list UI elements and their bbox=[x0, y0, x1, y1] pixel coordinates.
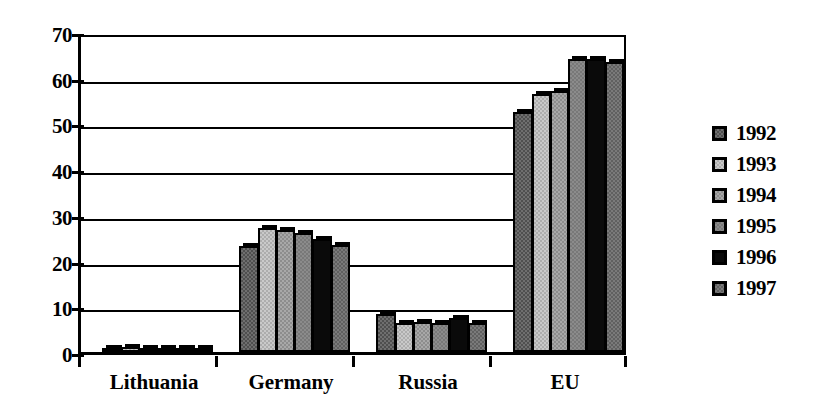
bar-top-cap bbox=[536, 91, 551, 96]
legend-swatch-icon bbox=[712, 219, 727, 234]
bar bbox=[331, 245, 350, 352]
bar-top-cap bbox=[572, 56, 587, 61]
x-axis-category-label: Lithuania bbox=[110, 370, 199, 395]
bar-group bbox=[355, 37, 492, 352]
bar bbox=[312, 239, 331, 352]
bar bbox=[605, 62, 624, 352]
bar-top-cap bbox=[243, 243, 258, 248]
x-axis-tick-mark bbox=[78, 356, 81, 367]
bar bbox=[513, 112, 532, 352]
bar bbox=[102, 348, 121, 352]
bar bbox=[413, 322, 432, 352]
y-axis-tick-label: 60 bbox=[12, 70, 72, 91]
bar bbox=[468, 323, 487, 352]
bar-top-cap bbox=[554, 88, 569, 93]
legend-item: 1993 bbox=[712, 149, 822, 180]
x-axis-tick-mark bbox=[352, 356, 355, 367]
legend-item-label: 1994 bbox=[736, 185, 776, 206]
bar bbox=[175, 348, 194, 352]
legend-item-label: 1992 bbox=[736, 123, 776, 144]
bar-group bbox=[492, 37, 629, 352]
legend-item-label: 1993 bbox=[736, 154, 776, 175]
legend-swatch-icon bbox=[712, 281, 727, 296]
y-axis-tick-label: 70 bbox=[12, 25, 72, 46]
x-axis-category-label: Germany bbox=[248, 370, 333, 395]
x-axis-tick-mark bbox=[215, 356, 218, 367]
bar bbox=[550, 91, 569, 352]
bar-top-cap bbox=[380, 311, 395, 316]
bar-top-cap bbox=[609, 59, 624, 64]
bar-top-cap bbox=[435, 320, 450, 325]
y-axis-tick-label: 20 bbox=[12, 253, 72, 274]
bar-top-cap bbox=[106, 345, 121, 350]
y-axis-tick-mark bbox=[72, 308, 84, 311]
bars-layer bbox=[81, 37, 624, 352]
bar-top-cap bbox=[335, 242, 350, 247]
bar bbox=[157, 348, 176, 352]
legend-swatch-icon bbox=[712, 250, 727, 265]
y-axis-tick-mark bbox=[72, 125, 84, 128]
bar-top-cap bbox=[298, 230, 313, 235]
x-axis-tick-mark bbox=[624, 356, 627, 367]
bar bbox=[239, 246, 258, 352]
bar-top-cap bbox=[517, 109, 532, 114]
bar-top-cap bbox=[161, 345, 176, 350]
legend-item: 1996 bbox=[712, 242, 822, 273]
legend-item: 1994 bbox=[712, 180, 822, 211]
bar bbox=[449, 318, 468, 352]
legend-swatch-icon bbox=[712, 126, 727, 141]
legend-item: 1992 bbox=[712, 118, 822, 149]
bar bbox=[431, 323, 450, 352]
y-axis-tick-mark bbox=[72, 171, 84, 174]
x-axis-category-label: Russia bbox=[398, 370, 458, 395]
legend-item-label: 1995 bbox=[736, 216, 776, 237]
bar bbox=[395, 323, 414, 352]
y-axis-labels: 010203040506070 bbox=[0, 0, 72, 418]
y-axis-tick-mark bbox=[72, 263, 84, 266]
y-axis-tick-label: 0 bbox=[12, 345, 72, 366]
bar bbox=[194, 348, 213, 352]
bar-chart: 010203040506070 LithuaniaGermanyRussiaEU… bbox=[0, 0, 828, 418]
y-axis-tick-label: 40 bbox=[12, 162, 72, 183]
legend-item-label: 1996 bbox=[736, 247, 776, 268]
bar bbox=[276, 230, 295, 353]
y-axis-tick-label: 10 bbox=[12, 299, 72, 320]
bar bbox=[121, 347, 140, 352]
bar bbox=[139, 348, 158, 352]
bar bbox=[568, 59, 587, 352]
y-axis-tick-mark bbox=[72, 217, 84, 220]
y-axis-tick-mark bbox=[72, 354, 84, 357]
bar-top-cap bbox=[262, 225, 277, 230]
bar-top-cap bbox=[590, 56, 605, 61]
y-axis-tick-label: 50 bbox=[12, 116, 72, 137]
bar bbox=[532, 94, 551, 352]
bar-top-cap bbox=[472, 320, 487, 325]
y-axis-tick-label: 30 bbox=[12, 207, 72, 228]
legend: 199219931994199519961997 bbox=[712, 118, 822, 304]
bar bbox=[376, 314, 395, 352]
bar-group bbox=[218, 37, 355, 352]
bar-top-cap bbox=[179, 345, 194, 350]
bar bbox=[294, 233, 313, 352]
bar bbox=[586, 59, 605, 352]
bar-top-cap bbox=[143, 345, 158, 350]
bar-group bbox=[81, 37, 218, 352]
x-axis-category-label: EU bbox=[550, 370, 579, 395]
bar-top-cap bbox=[417, 319, 432, 324]
bar-top-cap bbox=[280, 227, 295, 232]
bar-top-cap bbox=[399, 320, 414, 325]
x-axis-tick-mark bbox=[489, 356, 492, 367]
plot-area bbox=[78, 35, 626, 355]
bar bbox=[258, 228, 277, 352]
y-axis-tick-mark bbox=[72, 34, 84, 37]
legend-swatch-icon bbox=[712, 188, 727, 203]
y-axis-tick-mark bbox=[72, 80, 84, 83]
legend-item-label: 1997 bbox=[736, 278, 776, 299]
legend-item: 1995 bbox=[712, 211, 822, 242]
legend-swatch-icon bbox=[712, 157, 727, 172]
bar-top-cap bbox=[125, 344, 140, 349]
legend-item: 1997 bbox=[712, 273, 822, 304]
bar-top-cap bbox=[453, 315, 468, 320]
bar-top-cap bbox=[316, 236, 331, 241]
bar-top-cap bbox=[198, 345, 213, 350]
